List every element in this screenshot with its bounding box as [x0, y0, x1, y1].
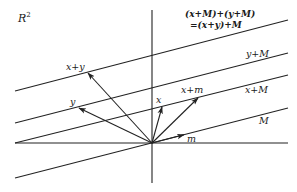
label-x: x	[156, 94, 162, 105]
label-sum-of-cosets-equals: =(x+y)+M	[190, 20, 243, 30]
label-x-plus-m: x+m	[181, 84, 203, 95]
label-y: y	[69, 96, 76, 107]
label-x-plus-M: x+M	[245, 84, 268, 95]
space-label: R2	[17, 11, 31, 25]
label-sum-of-cosets: (x+M)+(y+M)	[185, 9, 255, 19]
quotient-space-diagram: R2 x+y y x x+m m (x+M)+(y+M) =(x+y)+M y+…	[0, 0, 297, 192]
label-x-plus-y: x+y	[66, 61, 85, 72]
vector-y	[79, 108, 152, 143]
vector-x-plus-y	[88, 73, 152, 143]
label-y-plus-M: y+M	[245, 48, 269, 59]
label-M: M	[258, 115, 269, 126]
label-m: m	[187, 133, 196, 144]
